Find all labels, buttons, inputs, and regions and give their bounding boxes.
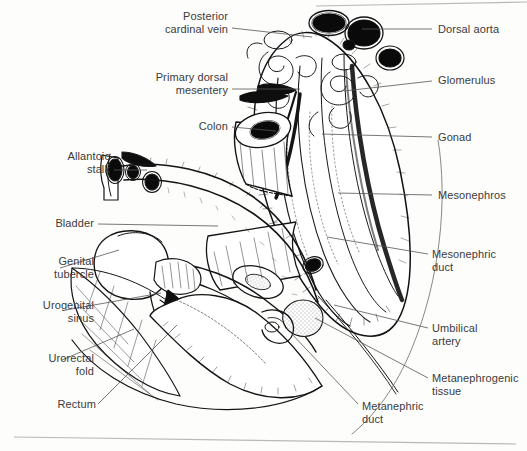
label-metanephrogenic-tissue: Metanephrogenic tissue [432, 372, 527, 397]
label-glomerulus: Glomerulus [438, 74, 524, 87]
label-gonad: Gonad [438, 131, 518, 144]
label-umbilical-artery: Umbilical artery [432, 322, 520, 347]
label-rectum: Rectum [24, 398, 96, 411]
genital-tubercle [154, 259, 201, 295]
figure-page: Posterior cardinal veinPrimary dorsal me… [0, 0, 527, 451]
label-posterior-cardinal-vein: Posterior cardinal vein [118, 10, 228, 35]
label-allantoic-stalk: Allantoic stalk [30, 150, 110, 175]
label-urogenital-sinus: Urogenital sinus [2, 299, 94, 324]
label-mesonephric-duct: Mesonephric duct [432, 248, 524, 273]
top-rule [316, 2, 527, 6]
label-colon: Colon [150, 120, 228, 133]
label-primary-dorsal-mesentery: Primary dorsal mesentery [110, 71, 228, 96]
metanephrogenic-tissue [283, 300, 323, 336]
label-genital-tubercle: Genital tubercle [8, 255, 94, 280]
label-mesonephros: Mesonephros [438, 189, 526, 202]
leader-bladder [98, 224, 218, 226]
label-bladder: Bladder [14, 217, 94, 230]
label-urorectal-fold: Urorectal fold [6, 352, 94, 377]
bottom-rule [14, 437, 516, 444]
label-metanephric-duct: Metanephric duct [362, 400, 454, 425]
colon-tube [232, 108, 294, 196]
label-dorsal-aorta: Dorsal aorta [438, 23, 524, 36]
